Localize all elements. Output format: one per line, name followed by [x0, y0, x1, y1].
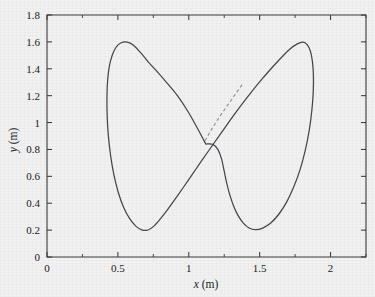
plot-background	[47, 15, 366, 257]
y-tick-label-5: 1	[35, 117, 41, 129]
y-axis-tick-labels: 00.20.40.60.811.21.41.61.8	[26, 9, 40, 263]
y-tick-label-7: 1.4	[26, 63, 40, 75]
x-tick-label-2: 1	[186, 262, 192, 274]
y-axis-title: y(m)	[7, 127, 20, 153]
x-axis-tick-labels: 00.511.52	[44, 262, 333, 274]
x-tick-label-4: 2	[328, 262, 334, 274]
axes-group: 00.511.52 00.20.40.60.811.21.41.61.8	[26, 9, 366, 274]
figure-panel: 00.511.52 00.20.40.60.811.21.41.61.8 x(m…	[0, 0, 375, 297]
y-tick-label-1: 0.2	[26, 224, 40, 236]
x-tick-label-3: 1.5	[253, 262, 267, 274]
x-tick-label-1: 0.5	[111, 262, 125, 274]
y-tick-label-3: 0.6	[26, 170, 40, 182]
y-tick-label-4: 0.8	[26, 143, 40, 155]
y-tick-label-6: 1.2	[26, 90, 40, 102]
plot-canvas: 00.511.52 00.20.40.60.811.21.41.61.8 x(m…	[0, 0, 375, 297]
y-tick-label-0: 0	[35, 251, 41, 263]
y-tick-label-2: 0.4	[26, 197, 40, 209]
y-tick-label-8: 1.6	[26, 36, 40, 48]
x-tick-label-0: 0	[44, 262, 50, 274]
x-axis-title: x(m)	[193, 278, 219, 291]
y-tick-label-9: 1.8	[26, 9, 40, 21]
